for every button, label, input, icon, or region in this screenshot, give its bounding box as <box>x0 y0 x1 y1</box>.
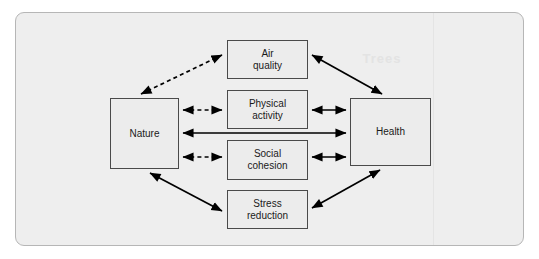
node-health-label: Health <box>374 126 407 138</box>
edge-air-health <box>312 55 382 94</box>
node-physical-activity: Physical activity <box>227 90 308 129</box>
node-social-cohesion: Social cohesion <box>227 140 308 180</box>
node-stress-reduction: Stress reduction <box>227 190 308 229</box>
node-social-cohesion-label: Social cohesion <box>245 148 289 172</box>
edge-stress-health <box>312 170 380 208</box>
edge-nature-air <box>141 55 222 94</box>
edge-nature-stress <box>150 173 222 211</box>
node-physical-activity-label: Physical activity <box>247 98 288 122</box>
node-nature-label: Nature <box>127 128 161 140</box>
node-stress-reduction-label: Stress reduction <box>245 198 290 222</box>
diagram-figure: Trees Nature Air qu <box>0 0 539 259</box>
node-health: Health <box>350 98 431 166</box>
node-air-quality: Air quality <box>227 40 308 79</box>
node-air-quality-label: Air quality <box>251 48 284 72</box>
node-nature: Nature <box>110 98 179 169</box>
